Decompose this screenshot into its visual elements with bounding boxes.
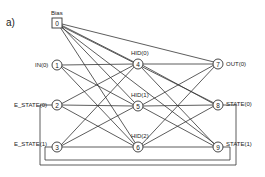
svg-text:HID(1): HID(1) xyxy=(131,92,149,98)
svg-text:IN(0): IN(0) xyxy=(35,62,48,68)
svg-text:6: 6 xyxy=(136,144,140,151)
svg-text:Bias: Bias xyxy=(51,10,63,16)
svg-text:HID(0): HID(0) xyxy=(131,50,149,56)
svg-text:HID(2): HID(2) xyxy=(131,133,149,139)
svg-text:STATE(0): STATE(0) xyxy=(226,101,252,107)
svg-text:5: 5 xyxy=(136,103,140,110)
node-8: 8 STATE(0) xyxy=(213,100,252,110)
svg-text:8: 8 xyxy=(216,102,220,109)
svg-text:1: 1 xyxy=(55,62,59,69)
node-6: 6 HID(2) xyxy=(131,133,149,152)
input-hidden-edges xyxy=(61,64,135,147)
node-4: 4 HID(0) xyxy=(131,50,149,69)
node-bias: 0 Bias xyxy=(51,10,63,28)
svg-text:7: 7 xyxy=(216,61,220,68)
svg-text:OUT(0): OUT(0) xyxy=(226,61,246,67)
bias-edges xyxy=(60,24,215,144)
svg-text:E_STATE(0): E_STATE(0) xyxy=(14,102,47,108)
neural-network-diagram: a) 0 Bias xyxy=(0,0,265,177)
svg-text:4: 4 xyxy=(136,61,140,68)
figure-label: a) xyxy=(6,17,15,28)
node-9: 9 STATE(1) xyxy=(213,141,252,152)
svg-text:9: 9 xyxy=(216,144,220,151)
svg-text:0: 0 xyxy=(55,20,59,27)
node-1: 1 IN(0) xyxy=(35,60,62,70)
svg-text:2: 2 xyxy=(55,102,59,109)
svg-text:E_STATE(1): E_STATE(1) xyxy=(14,141,47,147)
node-3: 3 E_STATE(1) xyxy=(14,141,62,152)
node-2: 2 E_STATE(0) xyxy=(14,100,62,110)
svg-text:STATE(1): STATE(1) xyxy=(226,141,252,147)
hidden-output-edges xyxy=(141,64,215,147)
node-7: 7 OUT(0) xyxy=(213,59,246,69)
svg-text:3: 3 xyxy=(55,144,59,151)
